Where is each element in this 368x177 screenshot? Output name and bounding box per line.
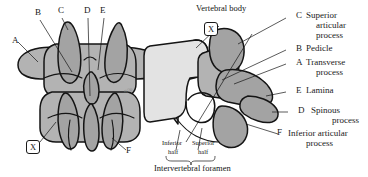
superior-half-label-line2: half [198,149,208,156]
leader-C-right [238,18,286,44]
legend-item-f: Inferior articular process [288,128,348,148]
right-marker-F: F [277,128,282,138]
legend-text-f-line1: Inferior articular [288,128,348,138]
legend-text-d-line1: Spinous [308,105,359,115]
legend-item-d: D Spinous process [298,105,359,125]
legend-text-d-line2: process [308,115,359,125]
legend-letter-c: C [296,10,306,20]
legend-letter-e: E [296,85,306,95]
leader-F-right [246,124,278,134]
superior-half-label-line1: Superior [192,140,214,147]
intervertebral-foramen-caption: Intervertebral foramen [154,164,231,173]
legend-text-f-line2: process [288,138,348,148]
left-marker-A: A [12,36,19,46]
legend-text-a: Transverse process [306,57,345,77]
legend-text-d: Spinous process [308,105,359,125]
left-marker-C: C [58,6,64,16]
legend-text-c-line3: process [306,30,346,40]
legend-text-a-line1: Transverse [306,57,345,67]
legend-item-a: A Transverse process [296,57,345,77]
right-boxed-marker-x: X [204,22,218,36]
left-marker-F: F [126,146,131,156]
legend-letter-b: B [296,43,306,53]
legend-letter-d: D [298,105,308,115]
inferior-half-label-line2: half [168,149,178,156]
left-boxed-marker-x: X [26,140,40,154]
legend-text-c: Superior articular process [306,10,346,40]
scan-artifact-smudge: n/2R [124,88,133,94]
left-panel-posterior-vertebrae [18,18,162,151]
left-marker-B: B [35,8,41,18]
legend-letter-a: A [296,57,306,67]
left-marker-E: E [100,6,106,16]
legend-text-c-line1: Superior [306,10,346,20]
legend-text-b: Pedicle [306,43,333,53]
legend-item-c: C Superior articular process [296,10,346,40]
vertebral-body-label: Vertebral body [196,4,246,13]
legend-text-c-line2: articular [306,20,346,30]
legend-text-a-line2: process [306,67,345,77]
inferior-half-label-line1: Inferior [162,140,182,147]
legend-item-b: B Pedicle [296,43,333,53]
legend-text-e: Lamina [306,85,334,95]
legend-text-f: Inferior articular process [288,128,348,148]
left-marker-D: D [84,6,91,16]
legend-item-e: E Lamina [296,85,334,95]
